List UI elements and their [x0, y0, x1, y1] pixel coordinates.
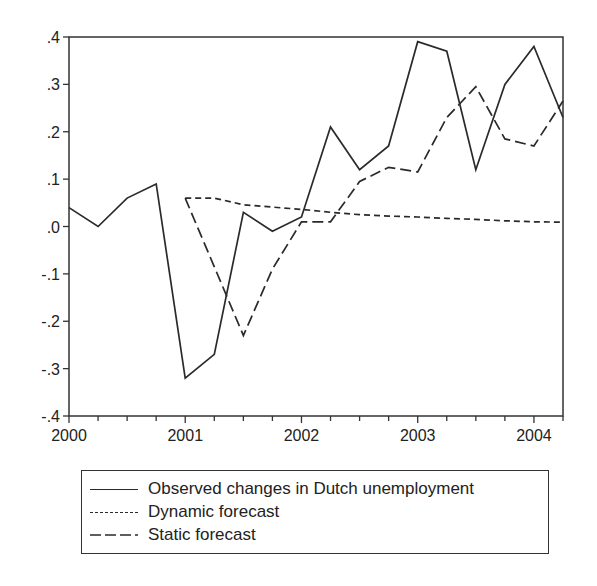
- short-dash-line-icon: [90, 512, 138, 513]
- y-tick-label: -.3: [41, 361, 60, 378]
- legend-label: Observed changes in Dutch unemployment: [148, 479, 474, 499]
- y-tick-label: -.2: [41, 313, 60, 330]
- x-tick-label: 2003: [400, 427, 436, 444]
- legend: Observed changes in Dutch unemployment D…: [81, 470, 549, 554]
- y-tick-label: .4: [47, 29, 60, 46]
- legend-label: Dynamic forecast: [148, 502, 279, 522]
- y-tick-label: .0: [47, 219, 60, 236]
- legend-item-static: Static forecast: [90, 524, 256, 546]
- legend-label: Static forecast: [148, 525, 256, 545]
- x-tick-label: 2002: [284, 427, 320, 444]
- y-tick-label: -.4: [41, 408, 60, 425]
- long-dash-line-icon: [90, 533, 138, 537]
- x-tick-label: 2000: [51, 427, 87, 444]
- x-axis: 20002001200220032004: [51, 416, 563, 444]
- plot-area-frame: [69, 37, 563, 416]
- y-tick-label: .1: [47, 171, 60, 188]
- y-axis: .4.3.2.1.0-.1-.2-.3-.4: [41, 29, 69, 425]
- series-solid-line: [69, 42, 563, 378]
- y-tick-label: .2: [47, 124, 60, 141]
- legend-item-observed: Observed changes in Dutch unemployment: [90, 478, 474, 500]
- x-tick-label: 2004: [516, 427, 552, 444]
- legend-item-dynamic: Dynamic forecast: [90, 501, 279, 523]
- solid-line-icon: [90, 489, 138, 490]
- y-tick-label: -.1: [41, 266, 60, 283]
- series-lines: [69, 42, 563, 378]
- y-tick-label: .3: [47, 76, 60, 93]
- x-tick-label: 2001: [167, 427, 203, 444]
- series-long-dash-line: [185, 87, 563, 336]
